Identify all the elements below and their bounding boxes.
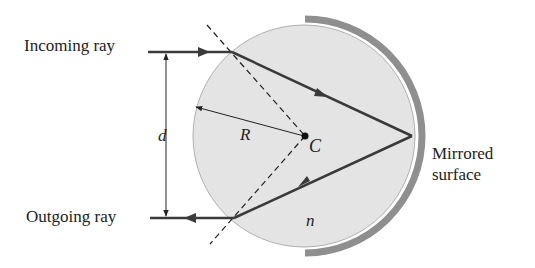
center-point: [302, 133, 309, 140]
incoming-ray-label: Incoming ray: [24, 36, 116, 55]
outgoing-arrowhead-icon: [184, 213, 196, 223]
R-label: R: [239, 125, 251, 144]
outgoing-ray-label: Outgoing ray: [26, 207, 117, 226]
C-label: C: [309, 136, 322, 156]
d-label: d: [158, 126, 167, 145]
surface-label: surface: [432, 165, 481, 184]
mirrored-label: Mirrored: [432, 144, 494, 163]
diagram-canvas: Incoming ray Outgoing ray d R C n Mirror…: [0, 0, 535, 268]
incoming-arrowhead-icon: [198, 47, 210, 57]
n-label: n: [306, 211, 315, 230]
